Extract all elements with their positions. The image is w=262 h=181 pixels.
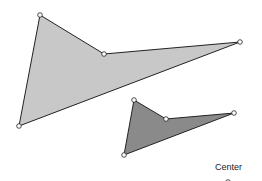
center-label: Center bbox=[215, 162, 242, 172]
small-quadrilateral bbox=[124, 100, 234, 155]
vertex-point[interactable] bbox=[102, 52, 107, 57]
vertex-point[interactable] bbox=[164, 117, 169, 122]
vertex-point[interactable] bbox=[17, 124, 22, 129]
vertex-point[interactable] bbox=[238, 40, 243, 45]
center-point[interactable] bbox=[226, 180, 231, 181]
vertex-point[interactable] bbox=[132, 98, 137, 103]
vertex-point[interactable] bbox=[122, 153, 127, 158]
vertex-point[interactable] bbox=[232, 111, 237, 116]
vertex-point[interactable] bbox=[38, 13, 43, 18]
diagram-canvas bbox=[0, 0, 262, 181]
large-quadrilateral bbox=[19, 15, 240, 126]
